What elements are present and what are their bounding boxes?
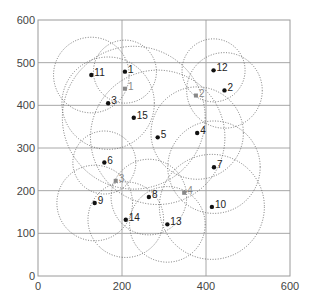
point-label: 7	[217, 159, 223, 170]
point-label: 15	[137, 110, 149, 121]
point-label: 3	[119, 173, 125, 184]
node-marker	[124, 217, 128, 221]
node-marker	[210, 205, 214, 209]
y-tick-label: 500	[17, 57, 35, 69]
point-label: 1	[128, 81, 134, 92]
point-label: 8	[152, 189, 158, 200]
x-tick-label: 600	[281, 280, 299, 292]
anchor-marker	[114, 179, 118, 183]
point-label: 5	[161, 129, 167, 140]
scatter-chart: 02004006000100200300400500600 1234567891…	[0, 0, 311, 306]
node-marker	[156, 135, 160, 139]
y-tick-label: 400	[17, 99, 35, 111]
point-label: 13	[170, 216, 182, 227]
point-label: 6	[107, 155, 113, 166]
point-label: 4	[200, 125, 206, 136]
x-tick-label: 200	[113, 280, 131, 292]
point-label: 9	[98, 195, 104, 206]
node-marker	[93, 201, 97, 205]
y-tick-label: 200	[17, 185, 35, 197]
node-marker	[132, 116, 136, 120]
node-marker	[147, 195, 151, 199]
point-label: 10	[215, 199, 227, 210]
y-tick-label: 600	[17, 14, 35, 26]
point-label: 2	[199, 88, 205, 99]
anchor-marker	[123, 87, 127, 91]
node-marker	[211, 68, 215, 72]
node-marker	[165, 222, 169, 226]
y-tick-label: 0	[29, 270, 35, 282]
y-tick-label: 100	[17, 227, 35, 239]
node-marker	[212, 165, 216, 169]
node-marker	[106, 101, 110, 105]
point-label: 1	[128, 64, 134, 75]
node-marker	[123, 69, 127, 73]
tick-labels: 02004006000100200300400500600	[17, 14, 300, 292]
data-points: 1234567891011121314151234	[89, 62, 233, 227]
x-tick-label: 0	[35, 280, 41, 292]
node-marker	[195, 131, 199, 135]
y-tick-label: 300	[17, 142, 35, 154]
point-label: 14	[129, 212, 141, 223]
node-marker	[89, 73, 93, 77]
anchor-marker	[194, 94, 198, 98]
node-marker	[102, 160, 106, 164]
point-label: 3	[111, 95, 117, 106]
grid-lines	[38, 20, 290, 276]
point-label: 4	[187, 185, 193, 196]
point-label: 2	[227, 82, 233, 93]
node-marker	[222, 88, 226, 92]
anchor-marker	[182, 191, 186, 195]
point-label: 11	[94, 67, 105, 78]
x-tick-label: 400	[197, 280, 215, 292]
range-circles	[54, 37, 265, 262]
point-label: 12	[217, 62, 229, 73]
